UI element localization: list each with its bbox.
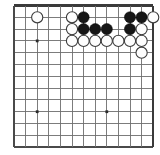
black-stone[interactable]	[136, 12, 147, 23]
black-stone[interactable]	[78, 12, 89, 23]
white-stone[interactable]	[90, 35, 101, 46]
go-board[interactable]	[0, 0, 160, 155]
black-stone[interactable]	[78, 24, 89, 35]
star-point	[36, 110, 39, 113]
white-stone[interactable]	[136, 24, 147, 35]
white-stone[interactable]	[124, 35, 135, 46]
black-stone[interactable]	[124, 24, 135, 35]
white-stone[interactable]	[66, 24, 77, 35]
white-stone[interactable]	[66, 35, 77, 46]
white-stone[interactable]	[148, 12, 159, 23]
black-stone[interactable]	[124, 12, 135, 23]
black-stone[interactable]	[101, 24, 112, 35]
go-diagram-container	[0, 0, 160, 155]
white-stone[interactable]	[32, 12, 43, 23]
white-stone[interactable]	[101, 35, 112, 46]
white-stone[interactable]	[136, 47, 147, 58]
white-stone[interactable]	[78, 35, 89, 46]
white-stone[interactable]	[113, 35, 124, 46]
black-stone[interactable]	[90, 24, 101, 35]
white-stone[interactable]	[136, 35, 147, 46]
star-point	[36, 40, 39, 43]
star-point	[105, 110, 108, 113]
white-stone[interactable]	[66, 12, 77, 23]
